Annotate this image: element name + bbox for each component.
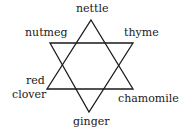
label-nutmeg: nutmeg bbox=[25, 26, 68, 39]
label-clover: clover bbox=[12, 88, 46, 101]
label-nettle: nettle bbox=[76, 2, 108, 15]
label-red: red bbox=[26, 74, 45, 87]
label-chamomile: chamomile bbox=[118, 92, 179, 105]
hexagram-diagram: nettle nutmeg thyme red clover chamomile… bbox=[0, 0, 191, 134]
label-ginger: ginger bbox=[73, 115, 109, 128]
hexagram-svg bbox=[0, 0, 191, 134]
label-thyme: thyme bbox=[124, 26, 159, 39]
